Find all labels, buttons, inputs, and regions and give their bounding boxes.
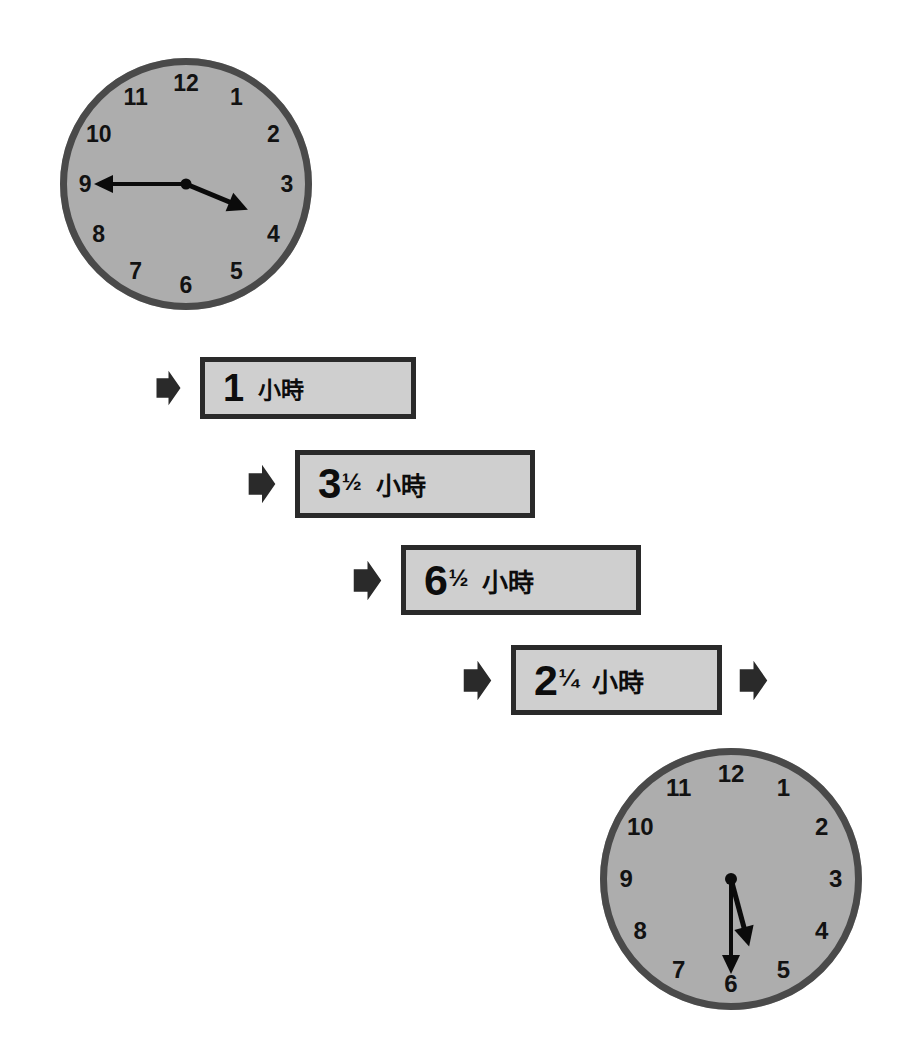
arrow-left-2 <box>247 463 277 505</box>
clock-rim <box>600 748 862 1010</box>
start-time-clock: 121234567891011 <box>60 58 312 310</box>
end-time-clock: 121234567891011 <box>600 748 862 1010</box>
arrow-left-3 <box>352 559 383 602</box>
duration-box-3: 6½小時 <box>401 545 641 615</box>
duration-fraction: ½ <box>448 564 468 592</box>
duration-whole-number: 1 <box>223 367 244 410</box>
arrow-right-4 <box>738 659 769 702</box>
duration-box-1: 1小時 <box>200 357 416 419</box>
duration-unit-label: 小時 <box>258 371 304 405</box>
worksheet-canvas: 1212345678910111212345678910111小時3½小時6½小… <box>0 0 905 1064</box>
arrow-left-4 <box>462 659 493 702</box>
clock-rim <box>60 58 312 310</box>
duration-whole-number: 6 <box>424 556 447 605</box>
duration-fraction: ¼ <box>558 664 578 692</box>
duration-unit-label: 小時 <box>376 466 426 502</box>
duration-unit-label: 小時 <box>482 562 534 599</box>
duration-box-4: 2¼小時 <box>511 645 722 715</box>
duration-box-2: 3½小時 <box>295 450 535 518</box>
duration-whole-number: 2 <box>534 656 557 705</box>
duration-whole-number: 3 <box>318 460 341 508</box>
duration-unit-label: 小時 <box>592 662 644 699</box>
arrow-left-1 <box>155 369 182 407</box>
duration-fraction: ½ <box>342 468 362 496</box>
